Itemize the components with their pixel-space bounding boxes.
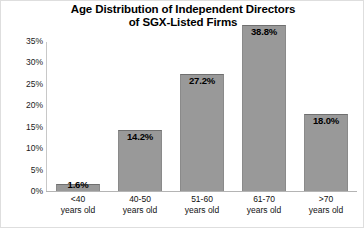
y-axis-tick-label: 35% xyxy=(1,36,43,46)
y-axis-tick-label: 20% xyxy=(1,100,43,110)
x-axis-category-line: years old xyxy=(295,205,357,216)
bar-value-label: 1.6% xyxy=(68,179,89,190)
x-axis-category-line: years old xyxy=(233,205,295,216)
bar-group: 27.2% xyxy=(180,41,224,191)
x-axis-category-label: 61-70years old xyxy=(233,194,295,216)
bar-group: 1.6% xyxy=(56,41,100,191)
x-axis-category-line: 40-50 xyxy=(109,194,171,205)
x-axis-category-label: <40years old xyxy=(47,194,109,216)
x-axis-category-label: 40-50years old xyxy=(109,194,171,216)
bar-group: 14.2% xyxy=(118,41,162,191)
bar-value-label: 14.2% xyxy=(127,131,153,142)
x-axis-category-line: years old xyxy=(47,205,109,216)
y-axis-tick-label: 5% xyxy=(1,165,43,175)
x-axis-category-line: years old xyxy=(109,205,171,216)
chart-title: Age Distribution of Independent Director… xyxy=(1,3,364,29)
x-axis-category-label: 51-60years old xyxy=(171,194,233,216)
bar-value-label: 27.2% xyxy=(189,75,215,86)
x-axis-category-line: years old xyxy=(171,205,233,216)
x-axis-category-line: >70 xyxy=(295,194,357,205)
chart-title-line-2: of SGX-Listed Firms xyxy=(1,16,364,29)
x-axis-category-label: >70years old xyxy=(295,194,357,216)
x-axis-category-line: 51-60 xyxy=(171,194,233,205)
y-axis-tick-label: 25% xyxy=(1,79,43,89)
x-axis-line xyxy=(46,191,357,192)
y-axis-tick-label: 30% xyxy=(1,57,43,67)
plot-area: 1.6%14.2%27.2%38.8%18.0% xyxy=(47,41,357,191)
y-axis-tick-label: 10% xyxy=(1,143,43,153)
y-axis: 0%5%10%15%20%25%30%35% xyxy=(1,1,43,228)
x-axis-category-line: 61-70 xyxy=(233,194,295,205)
bar-group: 38.8% xyxy=(242,41,286,191)
bar xyxy=(242,25,286,191)
chart-title-line-1: Age Distribution of Independent Director… xyxy=(1,3,364,16)
y-axis-tick-label: 15% xyxy=(1,122,43,132)
x-axis-category-line: <40 xyxy=(47,194,109,205)
bar-group: 18.0% xyxy=(304,41,348,191)
bar-value-label: 38.8% xyxy=(251,26,277,37)
bar-value-label: 18.0% xyxy=(313,115,339,126)
bar xyxy=(180,74,224,191)
y-axis-tick-label: 0% xyxy=(1,186,43,196)
bar-chart: Age Distribution of Independent Director… xyxy=(0,0,364,228)
